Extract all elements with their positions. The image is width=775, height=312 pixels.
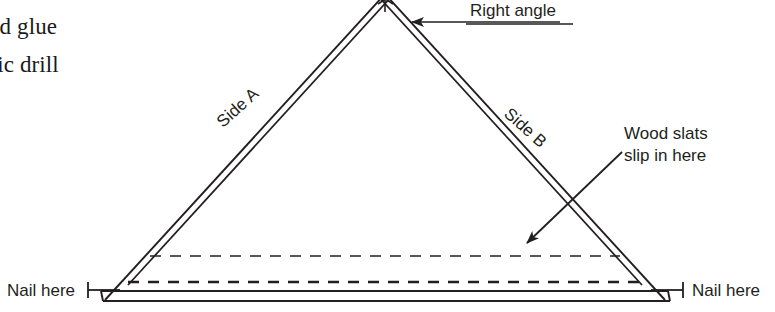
label-nail-here-right: Nail here [692, 280, 760, 302]
nail-here-left-leader [88, 282, 120, 298]
triangle-outer-frame [105, 0, 665, 300]
side-b-inner-line [378, 0, 642, 285]
label-right-angle: Right angle [470, 0, 556, 22]
side-a-inner-line [128, 0, 392, 285]
diagram-page: od glue tric drill [0, 0, 775, 312]
label-wood-slats-line2: slip in here [624, 145, 708, 167]
base-bar [101, 291, 670, 301]
side-a-outer-line [105, 0, 385, 300]
label-nail-here-left: Nail here [7, 280, 75, 302]
nail-here-right-leader [651, 282, 683, 298]
base-right-cap [668, 291, 670, 301]
side-b-outer-line [385, 0, 665, 300]
label-wood-slats-line1: Wood slats [624, 123, 708, 145]
triangle-inner-frame [128, 0, 642, 285]
base-left-cap [101, 291, 103, 301]
right-angle-callout [412, 22, 573, 24]
label-wood-slats: Wood slats slip in here [624, 123, 708, 167]
